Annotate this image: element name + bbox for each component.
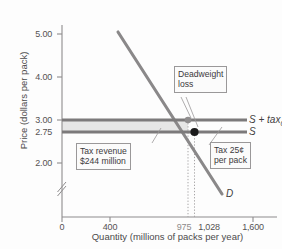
tax-per-pack-line-1: Tax 25¢ (214, 145, 247, 155)
tax-per-pack-line-2: per pack (214, 155, 247, 165)
supply-plus-tax-label-subscript: 0 (280, 120, 282, 127)
x-axis-ticks (62, 217, 253, 222)
supply-plus-tax-label-text: S + tax (249, 114, 280, 125)
demand-label: D (226, 188, 233, 199)
y-axis-title: Price (dollars per pack) (18, 31, 29, 171)
tax-per-pack-callout: Tax 25¢ per pack (210, 142, 251, 169)
equilibrium-point (190, 128, 198, 136)
demand-curve (118, 32, 222, 194)
x-axis-title: Quantity (millions of packs per year) (60, 231, 275, 242)
tax-revenue-line-1: Tax revenue (80, 146, 127, 156)
y-axis-ticks (57, 34, 62, 163)
deadweight-loss-callout: Deadweight loss (174, 66, 227, 93)
supply-label: S (249, 126, 256, 137)
tax-revenue-line-2: $244 million (80, 156, 127, 166)
buyers-price-point (185, 117, 192, 124)
supply-demand-tax-chart: 5.00 4.00 3.00 2.75 2.00 0 400 975 1,028… (0, 0, 282, 249)
tax-revenue-callout: Tax revenue $244 million (76, 143, 131, 170)
deadweight-loss-line-1: Deadweight (178, 69, 223, 79)
deadweight-loss-line-2: loss (178, 79, 223, 89)
